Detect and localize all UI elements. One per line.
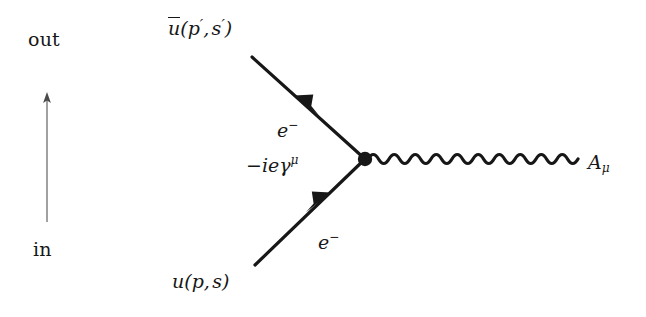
feynman-diagram-figure: out in u(p′,s′) u(p,s) e− e− −ieγμ Aμ bbox=[0, 0, 646, 317]
incoming-electron-arrowhead bbox=[306, 192, 331, 213]
vertex-factor-e: e bbox=[268, 154, 279, 176]
outgoing-spinor-momentum: p bbox=[188, 17, 200, 39]
outgoing-electron-charge-sup: − bbox=[288, 118, 298, 132]
vertex-factor-mu-sup: μ bbox=[291, 153, 299, 167]
outgoing-spinor-ubar: u bbox=[168, 19, 180, 38]
interaction-vertex-dot bbox=[358, 152, 372, 166]
time-direction-axis bbox=[43, 92, 51, 222]
photon-field-symbol: A bbox=[588, 151, 602, 173]
incoming-spinor-u: u bbox=[172, 270, 184, 292]
outgoing-electron-symbol: e bbox=[277, 119, 288, 141]
time-axis-out-label: out bbox=[28, 30, 60, 49]
incoming-spinor-open-paren: ( bbox=[184, 270, 191, 292]
vertex-factor-minus: − bbox=[246, 154, 262, 176]
vertex-factor-gamma: γ bbox=[279, 154, 290, 176]
incoming-spinor-momentum: p bbox=[192, 270, 204, 292]
photon-field-index-sub: μ bbox=[602, 161, 610, 175]
incoming-electron-label: e− bbox=[318, 231, 339, 252]
outgoing-spinor-close-paren: ) bbox=[225, 17, 232, 39]
vertex-factor-label: −ieγμ bbox=[246, 154, 299, 175]
outgoing-electron-line bbox=[252, 57, 365, 159]
outgoing-spinor-label: u(p′,s′) bbox=[168, 18, 232, 38]
time-axis-in-label: in bbox=[33, 240, 52, 259]
incoming-electron-symbol: e bbox=[318, 231, 329, 253]
outgoing-electron-stroke bbox=[252, 57, 365, 159]
incoming-electron-charge-sup: − bbox=[329, 230, 339, 244]
outgoing-electron-arrowhead bbox=[295, 94, 319, 115]
incoming-spinor-label: u(p,s) bbox=[172, 272, 229, 291]
outgoing-spinor-spin: s bbox=[212, 17, 222, 39]
incoming-spinor-close-paren: ) bbox=[222, 270, 229, 292]
outgoing-electron-label: e− bbox=[277, 119, 298, 140]
incoming-spinor-spin: s bbox=[212, 270, 222, 292]
outgoing-spinor-open-paren: ( bbox=[180, 17, 187, 39]
photon-field-label: Aμ bbox=[588, 153, 610, 175]
incoming-spinor-comma: , bbox=[204, 270, 210, 292]
diagram-canvas bbox=[0, 0, 646, 317]
outgoing-spinor-comma: , bbox=[203, 17, 209, 39]
photon-wavy-line bbox=[368, 155, 578, 164]
